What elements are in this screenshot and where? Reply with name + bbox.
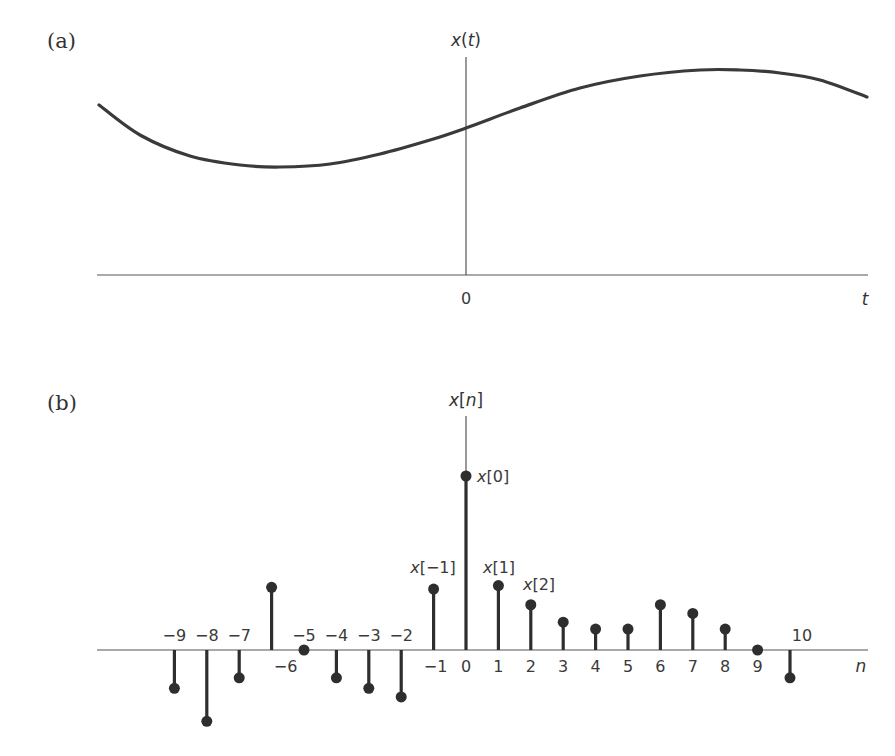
n-tick-labels: −9−8−7−6−5−4−3−2−1012345678910 — [163, 626, 813, 676]
n-tick-label: 10 — [792, 626, 812, 645]
sample-annotation: x[−1] — [409, 558, 456, 577]
n-axis-label: n — [856, 656, 867, 676]
n-tick-label: 1 — [493, 657, 503, 676]
stem-dot — [331, 672, 342, 683]
stem-sample — [299, 645, 310, 656]
n-tick-label: 0 — [461, 657, 471, 676]
stem-sample — [428, 584, 439, 650]
stem-dot — [752, 645, 763, 656]
stem-sample — [752, 645, 763, 656]
sample-annotation: x[2] — [522, 575, 555, 594]
stem-sample — [363, 650, 374, 694]
n-tick-label: −5 — [292, 626, 316, 645]
n-tick-label: −1 — [424, 657, 448, 676]
panel-b: (b) x[n] n −9−8−7−6−5−4−3−2−101234567891… — [47, 390, 868, 727]
n-tick-label: −4 — [325, 626, 349, 645]
continuous-signal-curve — [99, 69, 867, 167]
stem-dot — [266, 582, 277, 593]
stem-dot — [428, 584, 439, 595]
sample-annotations: x[0]x[1]x[2]x[−1] — [409, 467, 555, 594]
panel-a-label: (a) — [47, 29, 76, 53]
stem-sample — [687, 608, 698, 650]
stem-dot — [525, 599, 536, 610]
t-axis-label: t — [862, 289, 870, 309]
stem-dot — [169, 683, 180, 694]
stem-dot — [493, 580, 504, 591]
sample-annotation: x[0] — [476, 467, 509, 486]
stem-sample — [169, 650, 180, 694]
origin-label: 0 — [461, 289, 471, 308]
stem-sample — [623, 624, 634, 650]
stem-sample — [201, 650, 212, 727]
stem-sample — [266, 582, 277, 650]
sample-annotation: x[1] — [482, 558, 515, 577]
stem-dot — [720, 624, 731, 635]
stem-dot — [655, 599, 666, 610]
x-t-axis-label: x(t) — [450, 30, 481, 50]
stem-sample — [396, 650, 407, 702]
n-tick-label: −2 — [389, 626, 413, 645]
stem-dot — [558, 617, 569, 628]
n-tick-label: 4 — [591, 657, 601, 676]
stem-sample — [785, 650, 796, 683]
stem-sample — [655, 599, 666, 650]
n-tick-label: 3 — [558, 657, 568, 676]
panel-b-label: (b) — [47, 391, 77, 415]
n-tick-label: −6 — [274, 657, 298, 676]
n-tick-label: −7 — [227, 626, 251, 645]
stem-dot — [590, 624, 601, 635]
n-tick-label: 2 — [526, 657, 536, 676]
stem-sample — [558, 617, 569, 650]
stem-dot — [363, 683, 374, 694]
stem-dot — [201, 716, 212, 727]
n-tick-label: 8 — [720, 657, 730, 676]
stem-sample — [590, 624, 601, 650]
n-tick-label: 5 — [623, 657, 633, 676]
stem-sample — [720, 624, 731, 650]
stem-dot — [785, 672, 796, 683]
n-tick-label: 6 — [655, 657, 665, 676]
stem-sample — [331, 650, 342, 683]
n-tick-label: 7 — [688, 657, 698, 676]
stem-sample — [525, 599, 536, 650]
stem-series — [169, 471, 796, 727]
x-n-axis-label: x[n] — [448, 390, 483, 410]
n-tick-label: 9 — [753, 657, 763, 676]
stem-dot — [461, 471, 472, 482]
signal-figure: (a) x(t) 0 t (b) x[n] n −9−8−7−6−5−4−3−2… — [0, 0, 895, 756]
n-tick-label: −9 — [163, 626, 187, 645]
stem-sample — [461, 471, 472, 651]
stem-sample — [234, 650, 245, 683]
n-tick-label: −8 — [195, 626, 219, 645]
stem-dot — [396, 691, 407, 702]
stem-dot — [623, 624, 634, 635]
panel-a: (a) x(t) 0 t — [47, 29, 870, 309]
stem-dot — [687, 608, 698, 619]
stem-sample — [493, 580, 504, 650]
stem-dot — [234, 672, 245, 683]
n-tick-label: −3 — [357, 626, 381, 645]
stem-dot — [299, 645, 310, 656]
